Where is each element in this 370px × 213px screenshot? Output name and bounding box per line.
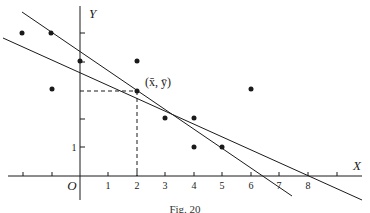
data-point xyxy=(163,116,168,121)
data-point xyxy=(249,87,254,92)
data-point xyxy=(50,87,55,92)
mean-point xyxy=(135,89,140,94)
data-point xyxy=(135,59,140,64)
y-axis-label: Y xyxy=(89,6,98,21)
data-points xyxy=(20,31,254,150)
data-point xyxy=(220,145,225,150)
mean-point-label: (x̄, ȳ) xyxy=(145,75,171,89)
x-axis-label: X xyxy=(352,158,362,173)
origin-label: O xyxy=(67,178,77,193)
scatter-regression-diagram: 1 2 3 4 5 6 7 8 1 X Y O (x̄, ȳ) xyxy=(0,0,370,213)
data-point xyxy=(49,31,54,36)
data-point xyxy=(78,59,83,64)
x-tick-label-5: 5 xyxy=(220,180,225,191)
steep-regression-line xyxy=(22,12,292,196)
x-tick-label-1: 1 xyxy=(106,180,111,191)
figure-caption: Fig. 20 xyxy=(0,203,370,213)
y-ticks xyxy=(80,33,85,147)
x-tick-label-2: 2 xyxy=(135,180,140,191)
x-ticks xyxy=(23,172,337,176)
data-point xyxy=(192,116,197,121)
data-point xyxy=(192,145,197,150)
x-tick-label-3: 3 xyxy=(163,180,168,191)
data-point xyxy=(20,31,25,36)
y-tick-label-1: 1 xyxy=(72,142,77,153)
x-tick-label-4: 4 xyxy=(192,180,197,191)
x-tick-label-8: 8 xyxy=(306,180,311,191)
x-tick-label-6: 6 xyxy=(249,180,254,191)
